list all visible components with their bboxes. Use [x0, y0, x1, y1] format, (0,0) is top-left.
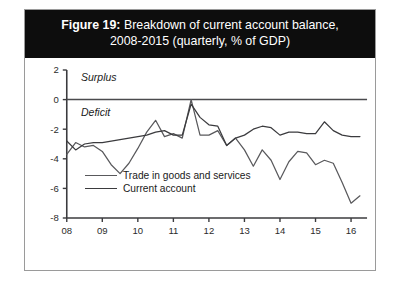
figure-number: Figure 19: [61, 18, 120, 32]
legend-item-current-account: Current account [85, 183, 251, 194]
figure-title-line2: 2008-2015 (quarterly, % of GDP) [35, 33, 365, 49]
axes-group: 20-2-4-6-8080910111213141516 [50, 64, 367, 236]
legend-label-trade: Trade in goods and services [123, 170, 251, 181]
chart-svg: 20-2-4-6-8080910111213141516 [25, 58, 375, 256]
x-tick-label: 08 [61, 225, 72, 236]
y-tick-label: 0 [53, 94, 58, 105]
x-tick-label: 16 [346, 225, 357, 236]
x-tick-label: 13 [239, 225, 250, 236]
y-tick-label: -4 [50, 153, 59, 164]
y-tick-label: 2 [53, 64, 58, 75]
surplus-label: Surplus [81, 71, 117, 83]
y-tick-label: -2 [50, 123, 58, 134]
x-tick-label: 14 [275, 225, 286, 236]
x-tick-label: 09 [97, 225, 108, 236]
x-tick-label: 10 [133, 225, 144, 236]
legend-swatch-trade-icon [85, 175, 117, 176]
x-tick-label: 11 [168, 225, 178, 236]
chart-legend: Trade in goods and services Current acco… [85, 170, 251, 196]
y-tick-label: -8 [50, 212, 58, 223]
deficit-label: Deficit [81, 106, 110, 118]
figure-card: Figure 19: Breakdown of current account … [24, 9, 376, 271]
x-tick-label: 12 [204, 225, 215, 236]
legend-swatch-current-account-icon [85, 188, 117, 189]
figure-title-bar: Figure 19: Breakdown of current account … [25, 10, 375, 58]
x-tick-label: 15 [310, 225, 321, 236]
figure-title-line1: Breakdown of current account balance, [120, 18, 338, 32]
chart-plot-area: 20-2-4-6-8080910111213141516 Surplus Def… [25, 58, 375, 256]
legend-label-current-account: Current account [123, 183, 195, 194]
legend-item-trade: Trade in goods and services [85, 170, 251, 181]
y-tick-label: -6 [50, 183, 58, 194]
series-line-current-account [67, 104, 360, 150]
